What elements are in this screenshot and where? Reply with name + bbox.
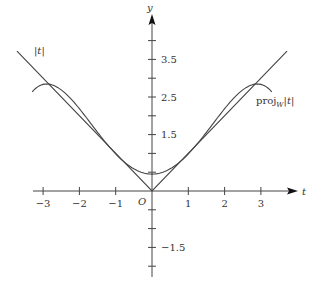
origin-label: O	[138, 196, 146, 207]
x-axis-label: t	[302, 186, 307, 197]
x-tick-label: −3	[36, 198, 51, 209]
labels: −3−2−11233.52.51.5−1.5ytO|t|projW|t|	[34, 2, 307, 253]
x-tick-label: −2	[72, 198, 87, 209]
x-tick-label: 1	[185, 198, 191, 209]
y-tick-label: −1.5	[161, 242, 185, 253]
x-tick-label: 3	[258, 198, 264, 209]
x-tick-label: 2	[221, 198, 227, 209]
y-axis-label: y	[146, 2, 153, 13]
x-tick-label: −1	[108, 198, 123, 209]
y-tick-label: 2.5	[161, 92, 177, 103]
chart: −3−2−11233.52.51.5−1.5ytO|t|projW|t|	[0, 0, 313, 288]
projection-annotation: projW|t|	[256, 95, 294, 109]
abs-t-annotation: |t|	[34, 45, 45, 57]
y-tick-label: 3.5	[161, 54, 177, 65]
y-tick-label: 1.5	[161, 129, 177, 140]
